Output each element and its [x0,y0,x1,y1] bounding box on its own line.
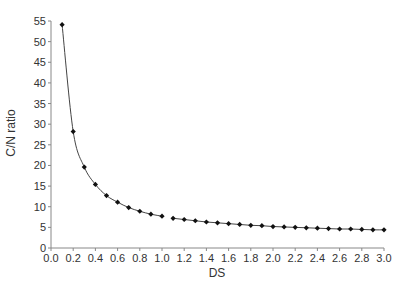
data-point-marker [326,226,331,231]
data-point-marker [82,165,87,170]
x-tick-label: 0.6 [110,252,125,264]
x-tick-label: 1.8 [243,252,258,264]
y-tick-label: 30 [34,118,46,130]
data-point-marker [126,205,131,210]
data-point-marker [137,209,142,214]
x-tick-label: 2.8 [354,252,369,264]
data-point-marker [182,217,187,222]
y-tick-label: 20 [34,159,46,171]
series-line [62,25,162,217]
data-point-marker [293,225,298,230]
data-point-marker [348,226,353,231]
axes [51,21,384,248]
x-tick-label: 1.6 [221,252,236,264]
y-tick-label: 10 [34,201,46,213]
y-tick-label: 25 [34,139,46,151]
y-tick-label: 35 [34,98,46,110]
data-point-marker [60,22,65,27]
x-tick-label: 1.2 [177,252,192,264]
x-tick-label: 0.2 [66,252,81,264]
data-point-marker [359,227,364,232]
data-point-marker [370,227,375,232]
x-tick-label: 3.0 [376,252,391,264]
x-tick-label: 2.0 [265,252,280,264]
data-point-marker [215,220,220,225]
data-point-marker [259,223,264,228]
data-point-marker [237,222,242,227]
x-tick-label: 0.8 [132,252,147,264]
y-tick-label: 40 [34,77,46,89]
plot-area [60,22,387,232]
data-point-marker [204,219,209,224]
data-point-marker [171,216,176,221]
x-tick-label: 0.4 [88,252,103,264]
x-tick-label: 2.4 [310,252,325,264]
y-tick-label: 45 [34,56,46,68]
data-point-marker [248,223,253,228]
x-tick-label: 0.0 [43,252,58,264]
data-point-marker [381,227,386,232]
data-point-marker [193,218,198,223]
ticks: 05101520253035404550550.00.20.40.60.81.0… [34,15,392,264]
data-point-marker [304,225,309,230]
y-tick-label: 50 [34,36,46,48]
data-point-marker [315,226,320,231]
y-axis-title: C/N ratio [4,109,18,157]
data-point-marker [337,226,342,231]
x-tick-label: 1.4 [199,252,214,264]
data-point-marker [115,200,120,205]
data-point-marker [226,221,231,226]
x-tick-label: 2.2 [288,252,303,264]
data-point-marker [71,129,76,134]
data-point-marker [148,212,153,217]
data-point-marker [159,214,164,219]
cn-ratio-vs-ds-chart: 05101520253035404550550.00.20.40.60.81.0… [0,0,404,294]
x-tick-label: 1.0 [154,252,169,264]
data-point-marker [282,224,287,229]
y-tick-label: 5 [40,221,46,233]
data-point-marker [270,224,275,229]
x-axis-title: DS [209,266,226,280]
y-tick-label: 15 [34,180,46,192]
x-tick-label: 2.6 [332,252,347,264]
y-tick-label: 55 [34,15,46,27]
